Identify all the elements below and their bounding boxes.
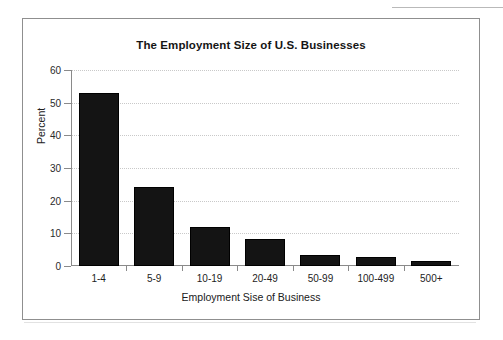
x-axis-tick-label: 50-99 — [308, 273, 334, 284]
x-axis-tick — [404, 266, 405, 271]
x-axis-tick-label: 500+ — [420, 273, 443, 284]
y-axis-tick — [64, 103, 71, 104]
x-axis-tick-label: 100-499 — [357, 273, 394, 284]
y-axis-tick — [64, 135, 71, 136]
y-axis-tick-label: 0 — [55, 261, 61, 272]
y-axis-tick-label: 50 — [50, 97, 61, 108]
x-axis-tick — [348, 266, 349, 271]
x-axis-tick — [182, 266, 183, 271]
y-axis-tick-label: 60 — [50, 65, 61, 76]
bar — [134, 187, 174, 266]
x-axis-tick-label: 20-49 — [252, 273, 278, 284]
plot-area: 0102030405060 1-45-910-1920-4950-99100-4… — [71, 70, 459, 266]
y-axis-tick-label: 40 — [50, 130, 61, 141]
y-axis-tick — [64, 233, 71, 234]
chart-title: The Employment Size of U.S. Businesses — [23, 39, 479, 51]
chart-page: The Employment Size of U.S. Businesses P… — [0, 0, 503, 340]
y-axis-title: Percent — [35, 108, 47, 144]
bar — [190, 227, 230, 266]
page-artifact-line-bottom — [24, 322, 476, 323]
y-axis-tick — [64, 70, 71, 71]
x-axis-tick — [126, 266, 127, 271]
bar — [300, 255, 340, 266]
x-axis-tick — [293, 266, 294, 271]
y-axis-tick-label: 10 — [50, 228, 61, 239]
bar-series — [71, 70, 459, 266]
page-artifact-line-top — [392, 7, 503, 8]
y-axis-tick — [64, 201, 71, 202]
bar — [356, 257, 396, 266]
bar — [79, 93, 119, 266]
x-axis-title: Employment Sise of Business — [23, 291, 479, 303]
x-axis-tick-label: 10-19 — [197, 273, 223, 284]
x-axis-tick-label: 5-9 — [147, 273, 161, 284]
bar — [245, 239, 285, 266]
y-axis-tick — [64, 168, 71, 169]
y-axis-tick — [64, 266, 71, 267]
bar — [411, 261, 451, 266]
figure-frame: The Employment Size of U.S. Businesses P… — [22, 18, 480, 320]
x-axis-tick — [237, 266, 238, 271]
y-axis-tick-label: 20 — [50, 195, 61, 206]
y-axis-tick-label: 30 — [50, 163, 61, 174]
x-axis-tick-label: 1-4 — [91, 273, 105, 284]
